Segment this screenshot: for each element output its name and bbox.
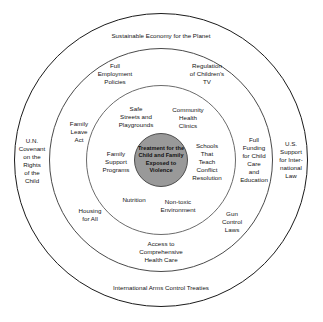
core-circle xyxy=(134,133,188,187)
concentric-circles-diagram: Sustainable Economy for the Planet U.S. … xyxy=(0,0,323,322)
